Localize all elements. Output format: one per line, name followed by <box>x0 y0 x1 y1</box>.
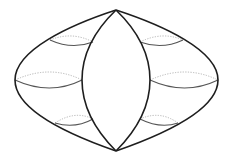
cross-section-upper-left-back-arc <box>50 36 93 42</box>
spindle-diagram <box>0 0 229 160</box>
cross-section-middle-left-back-arc <box>15 72 82 80</box>
cross-section-middle-left-front-arc <box>15 80 82 88</box>
inner-lens-left-edge <box>82 10 116 151</box>
outer-right-outline <box>116 10 218 151</box>
outer-left-outline <box>15 10 116 151</box>
cross-section-lower-right-front-arc <box>140 119 178 125</box>
cross-section-upper-left-front-arc <box>50 40 93 46</box>
cross-section-upper-right-front-arc <box>140 40 183 46</box>
cross-section-middle-right-back-arc <box>150 72 218 80</box>
cross-section-upper-right-back-arc <box>140 36 183 42</box>
cross-sections <box>15 36 218 125</box>
cross-section-middle-right-front-arc <box>150 80 218 88</box>
diagram-canvas <box>0 0 229 160</box>
inner-lens-right-edge <box>116 10 150 151</box>
